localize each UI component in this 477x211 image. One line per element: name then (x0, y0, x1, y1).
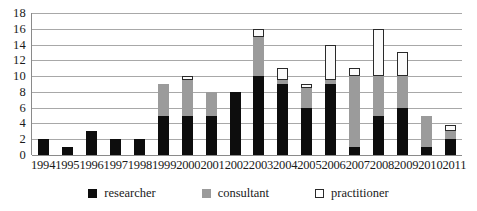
bar-stack-2003[interactable] (253, 29, 264, 155)
bar-stack-1998[interactable] (134, 139, 145, 155)
bar-slot-2003 (247, 13, 271, 155)
bar-segment-consultant-2000[interactable] (182, 80, 193, 116)
bar-segment-consultant-2008[interactable] (373, 76, 384, 115)
bar-segment-consultant-2007[interactable] (349, 76, 360, 147)
bar-slot-2002 (223, 13, 247, 155)
bar-segment-researcher-2004[interactable] (277, 84, 288, 155)
x-axis-tick-2001: 2001 (200, 156, 224, 176)
bar-segment-consultant-2011[interactable] (445, 131, 456, 139)
legend-label-practitioner: practitioner (331, 187, 389, 200)
bar-segment-researcher-2003[interactable] (253, 76, 264, 155)
x-axis-tick-2005: 2005 (297, 156, 321, 176)
bar-slot-2000 (175, 13, 199, 155)
bar-segment-researcher-2009[interactable] (397, 108, 408, 155)
y-axis-tick-2: 2 (20, 133, 26, 146)
bar-stack-2008[interactable] (373, 29, 384, 155)
bar-stack-2006[interactable] (325, 45, 336, 155)
bar-segment-practitioner-2006[interactable] (325, 45, 336, 81)
bar-slot-1998 (128, 13, 152, 155)
bar-segment-researcher-1995[interactable] (62, 147, 73, 155)
bar-slot-2004 (271, 13, 295, 155)
chart-legend: researcherconsultantpractitioner (0, 180, 477, 206)
y-axis-tick-8: 8 (20, 86, 26, 99)
legend-item-researcher[interactable]: researcher (88, 187, 155, 200)
x-axis-tick-2007: 2007 (346, 156, 370, 176)
y-axis-tick-18: 18 (13, 7, 26, 20)
plot-wrapper: 181614121086420 (0, 0, 477, 175)
bar-segment-practitioner-2004[interactable] (277, 68, 288, 80)
bar-segment-consultant-2010[interactable] (421, 116, 432, 148)
bar-segment-consultant-1999[interactable] (158, 84, 169, 116)
legend-label-researcher: researcher (104, 187, 155, 200)
x-axis-tick-2010: 2010 (418, 156, 442, 176)
bar-segment-researcher-2005[interactable] (301, 108, 312, 155)
bar-segment-practitioner-2003[interactable] (253, 29, 264, 37)
bar-segment-researcher-1998[interactable] (134, 139, 145, 155)
bar-stack-2002[interactable] (230, 92, 241, 155)
bar-stack-2007[interactable] (349, 68, 360, 155)
filled-black-square-icon (88, 189, 97, 198)
bar-slot-1994 (32, 13, 56, 155)
bar-segment-researcher-2000[interactable] (182, 116, 193, 155)
bar-segment-researcher-2011[interactable] (445, 139, 456, 155)
y-axis-tick-12: 12 (13, 54, 26, 67)
bar-slot-2001 (199, 13, 223, 155)
legend-label-consultant: consultant (218, 187, 269, 200)
legend-item-practitioner[interactable]: practitioner (315, 187, 389, 200)
bar-stack-2011[interactable] (445, 125, 456, 155)
bar-segment-researcher-1996[interactable] (86, 131, 97, 155)
bar-stack-1996[interactable] (86, 131, 97, 155)
bar-segment-practitioner-2008[interactable] (373, 29, 384, 76)
x-axis-tick-2006: 2006 (321, 156, 345, 176)
bar-segment-researcher-2006[interactable] (325, 84, 336, 155)
bar-stack-1997[interactable] (110, 139, 121, 155)
bar-stack-1995[interactable] (62, 147, 73, 155)
bar-stack-1999[interactable] (158, 84, 169, 155)
bar-stack-2000[interactable] (182, 76, 193, 155)
bar-segment-practitioner-2009[interactable] (397, 52, 408, 76)
bar-slot-2010 (414, 13, 438, 155)
x-axis-tick-2008: 2008 (370, 156, 394, 176)
x-axis-tick-1999: 1999 (152, 156, 176, 176)
y-axis-tick-10: 10 (13, 70, 26, 83)
bar-segment-researcher-2002[interactable] (230, 92, 241, 155)
y-axis-tick-6: 6 (20, 101, 26, 114)
bar-stack-1994[interactable] (38, 139, 49, 155)
bar-segment-consultant-2005[interactable] (301, 88, 312, 108)
bar-segment-researcher-2001[interactable] (206, 116, 217, 155)
bar-segment-researcher-2010[interactable] (421, 147, 432, 155)
bar-segment-researcher-1999[interactable] (158, 116, 169, 155)
y-axis-tick-4: 4 (20, 117, 26, 130)
y-axis-tick-labels: 181614121086420 (0, 0, 30, 175)
bar-stack-2009[interactable] (397, 52, 408, 155)
x-axis-tick-2009: 2009 (394, 156, 418, 176)
bar-slot-2009 (390, 13, 414, 155)
bar-segment-consultant-2003[interactable] (253, 37, 264, 76)
bar-segment-consultant-2009[interactable] (397, 76, 408, 108)
x-axis-tick-2011: 2011 (442, 156, 466, 176)
y-axis-tick-0: 0 (20, 149, 26, 162)
bar-segment-researcher-1997[interactable] (110, 139, 121, 155)
bar-segment-practitioner-2007[interactable] (349, 68, 360, 76)
x-axis-tick-2004: 2004 (273, 156, 297, 176)
bar-segment-consultant-2001[interactable] (206, 92, 217, 116)
outlined-white-square-icon (315, 189, 324, 198)
bar-slot-1995 (56, 13, 80, 155)
plot-area (31, 13, 462, 155)
bar-segment-researcher-1994[interactable] (38, 139, 49, 155)
x-axis-tick-labels: 1994199519961997199819992000200120022003… (31, 156, 462, 176)
bar-stack-2010[interactable] (421, 116, 432, 155)
x-axis-tick-2002: 2002 (225, 156, 249, 176)
bar-stack-2005[interactable] (301, 84, 312, 155)
bar-slot-2011 (438, 13, 462, 155)
bar-slot-2008 (366, 13, 390, 155)
bar-stack-2001[interactable] (206, 92, 217, 155)
bar-segment-researcher-2008[interactable] (373, 116, 384, 155)
filled-gray-square-icon (202, 189, 211, 198)
bar-slot-1996 (80, 13, 104, 155)
bar-slot-1999 (151, 13, 175, 155)
bar-stack-2004[interactable] (277, 68, 288, 155)
legend-item-consultant[interactable]: consultant (202, 187, 269, 200)
bar-segment-researcher-2007[interactable] (349, 147, 360, 155)
x-axis-tick-1998: 1998 (128, 156, 152, 176)
